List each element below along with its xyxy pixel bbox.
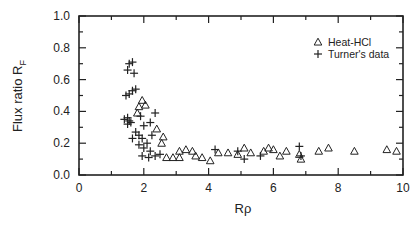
svg-text:Flux ratio RF: Flux ratio RF (10, 60, 28, 132)
series-turner-s-data (120, 58, 305, 163)
series-heat-hcl (134, 96, 401, 163)
legend: Heat-HClTurner's data (314, 36, 389, 60)
x-tick-label: 6 (270, 181, 277, 195)
scatter-chart: 0246810 0.00.20.40.60.81.0 Heat-HClTurne… (0, 0, 417, 225)
legend-item: Turner's data (314, 48, 389, 60)
y-tick-label: 1.0 (53, 9, 70, 23)
data-points (120, 58, 400, 164)
legend-label: Turner's data (328, 48, 389, 60)
x-tick-label: 0 (76, 181, 83, 195)
y-tick-label: 0.2 (53, 136, 70, 150)
x-tick-label: 4 (205, 181, 212, 195)
y-tick-label: 0.6 (53, 73, 70, 87)
x-axis-label: Rρ (235, 201, 252, 216)
x-tick-label: 10 (396, 181, 410, 195)
y-tick-label: 0.4 (53, 104, 70, 118)
y-axis-label: Flux ratio RF (10, 60, 28, 132)
legend-item: Heat-HCl (314, 36, 371, 48)
y-tick-label: 0.0 (53, 168, 70, 182)
y-tick-label: 0.8 (53, 41, 70, 55)
legend-label: Heat-HCl (328, 36, 371, 48)
x-tick-label: 8 (335, 181, 342, 195)
x-tick-label: 2 (140, 181, 147, 195)
